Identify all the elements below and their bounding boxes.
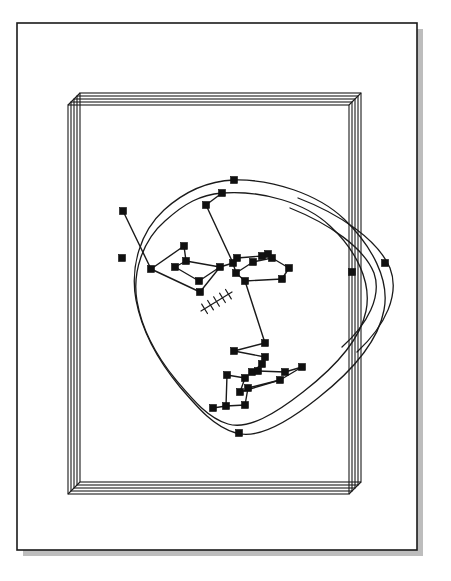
network-node [262,354,269,361]
network-edge [258,371,285,372]
network-node [219,190,226,197]
network-node [210,405,217,412]
network-node [120,208,127,215]
network-edge [226,375,227,406]
network-node [242,402,249,409]
network-node [197,289,204,296]
network-node [255,368,262,375]
network-node [382,260,389,267]
network-node [236,430,243,437]
network-node [259,361,266,368]
network-node [237,389,244,396]
network-node [231,348,238,355]
network-node [277,377,284,384]
network-node [269,255,276,262]
network-node [223,403,230,410]
network-node [245,385,252,392]
network-node [196,278,203,285]
network-node [262,340,269,347]
network-node [233,270,240,277]
network-node [203,202,210,209]
network-node [279,276,286,283]
network-node [299,364,306,371]
figure-root [0,0,451,581]
network-node [183,258,190,265]
network-node [231,177,238,184]
network-node [282,369,289,376]
network-node [181,243,188,250]
network-node [242,278,249,285]
network-node [234,255,241,262]
network-node [119,255,126,262]
network-node [148,266,155,273]
network-node [224,372,231,379]
network-node [172,264,179,271]
network-node [349,269,356,276]
figure-canvas [0,0,451,581]
network-node [286,265,293,272]
network-node [250,259,257,266]
network-node [217,264,224,271]
network-node [242,375,249,382]
